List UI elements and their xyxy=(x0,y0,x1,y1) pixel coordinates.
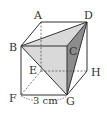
dimension-label: 3 cm xyxy=(33,95,58,106)
label-a: A xyxy=(33,9,43,22)
label-c: C xyxy=(69,45,77,58)
label-b: B xyxy=(9,41,17,54)
label-d: D xyxy=(84,9,93,22)
label-g: G xyxy=(66,95,75,108)
label-h: H xyxy=(91,66,101,79)
label-e: E xyxy=(29,64,37,77)
cube-diagram: A D B C E H F G 3 cm xyxy=(0,0,107,114)
label-f: F xyxy=(9,92,17,105)
